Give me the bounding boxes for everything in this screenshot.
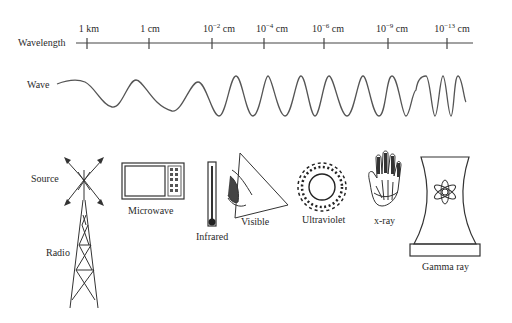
gamma-ray-label: Gamma ray bbox=[422, 261, 469, 272]
wavelength-axis-line bbox=[76, 38, 473, 49]
visible-label: Visible bbox=[241, 216, 269, 227]
eye-icon bbox=[228, 153, 288, 218]
infrared-label: Infrared bbox=[196, 231, 228, 242]
microwave-icon bbox=[122, 163, 184, 199]
atom-icon bbox=[433, 180, 458, 204]
xray-hand-icon bbox=[369, 151, 401, 206]
ultraviolet-label: Ultraviolet bbox=[302, 214, 345, 225]
microwave-label: Microwave bbox=[128, 205, 174, 216]
xray-label: x-ray bbox=[374, 215, 395, 226]
wave-curve bbox=[57, 76, 466, 116]
cooling-tower-icon bbox=[410, 157, 480, 256]
radio-tower-icon bbox=[66, 160, 102, 308]
sun-icon bbox=[298, 163, 346, 211]
spectrum-diagram bbox=[0, 0, 512, 323]
thermometer-icon bbox=[208, 162, 216, 226]
source-label: Source bbox=[31, 173, 59, 184]
radio-label: Radio bbox=[46, 247, 70, 258]
wave-label: Wave bbox=[27, 79, 50, 90]
